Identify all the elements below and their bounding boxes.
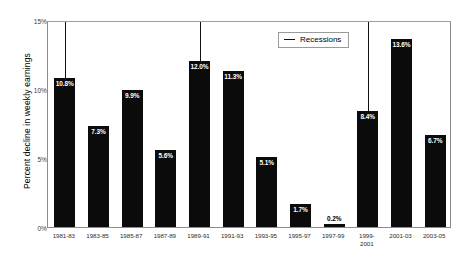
bar-value-label: 13.6% (393, 41, 411, 48)
bar-value-label: 11.3% (224, 73, 242, 80)
x-tick-label: 1997-99 (322, 232, 344, 240)
y-tick-label: 0% (7, 225, 47, 232)
bar-value-label: 9.9% (125, 92, 139, 99)
bar: 12.0% (189, 61, 210, 227)
bar-value-label: 8.4% (361, 113, 375, 120)
bar-value-label: 7.3% (91, 128, 105, 135)
bar: 5.6% (155, 150, 176, 227)
bar: 11.3% (223, 71, 244, 227)
bar: 1.7% (290, 204, 311, 227)
bar: 7.3% (88, 126, 109, 227)
x-tick-label: 1993-95 (255, 232, 277, 240)
bar-value-label: 1.7% (293, 206, 307, 213)
x-tick-label: 1985-87 (120, 232, 142, 240)
bar: 5.1% (256, 157, 277, 227)
x-tick-label: 2003-05 (423, 232, 445, 240)
bar-chart: Percent decline in weekly earnings 0%5%1… (0, 0, 471, 269)
recession-marker-line (368, 22, 369, 113)
legend: Recessions (278, 32, 349, 48)
bar: 13.6% (391, 39, 412, 227)
recession-marker-line (200, 22, 201, 63)
bar-value-label: 5.1% (260, 159, 274, 166)
plot-inner: 10.8%7.3%9.9%5.6%12.0%11.3%5.1%1.7%0.2%8… (48, 22, 450, 227)
x-tick-label: 1999- 2001 (359, 232, 375, 248)
bar-value-label: 12.0% (191, 63, 209, 70)
x-tick-label: 1987-89 (154, 232, 176, 240)
bar: 8.4% (357, 111, 378, 227)
bar-value-label: 10.8% (56, 80, 74, 87)
x-tick-label: 2001-03 (389, 232, 411, 240)
x-tick-label: 1989-91 (187, 232, 209, 240)
y-tick-label: 5% (7, 156, 47, 163)
x-tick-label: 1991-93 (221, 232, 243, 240)
plot-area: 10.8%7.3%9.9%5.6%12.0%11.3%5.1%1.7%0.2%8… (47, 21, 451, 228)
bar: 10.8% (54, 78, 75, 227)
recession-marker-line (65, 22, 66, 80)
bar: 6.7% (425, 135, 446, 227)
y-axis-title: Percent decline in weekly earnings (22, 16, 32, 226)
x-tick-label: 1995-97 (288, 232, 310, 240)
recession-line-swatch-icon (284, 39, 295, 41)
x-tick-label: 1983-85 (86, 232, 108, 240)
legend-label-recessions: Recessions (300, 35, 341, 44)
bar: 9.9% (122, 90, 143, 227)
y-tick-label: 10% (7, 87, 47, 94)
bar-value-label: 5.6% (159, 152, 173, 159)
bar: 0.2% (324, 224, 345, 227)
y-tick-label: 15% (7, 18, 47, 25)
x-tick-label: 1981-83 (53, 232, 75, 240)
bar-value-label: 6.7% (428, 137, 442, 144)
bar-value-label: 0.2% (327, 215, 341, 222)
